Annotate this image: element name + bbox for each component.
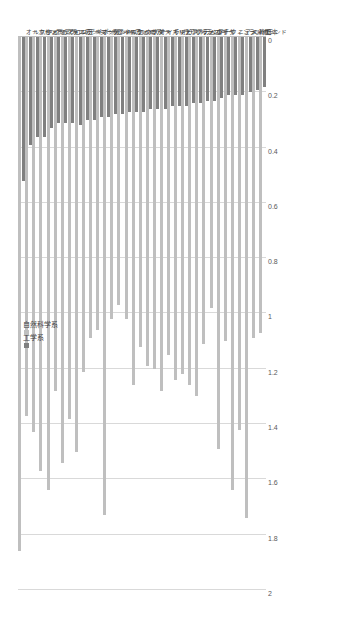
bar-natural-science: [18, 37, 21, 551]
bar-natural-science: [188, 37, 191, 385]
bar-row: [89, 0, 96, 625]
bar-row: [238, 0, 245, 625]
bar-natural-science: [210, 37, 213, 308]
chart-figure: オーストリアルクセンブルクスウェーデンドイツフィンランドエストニアアイルランドロ…: [0, 0, 352, 625]
bar-row: [160, 0, 167, 625]
bar-row: [75, 0, 82, 625]
tick-label-0.8: 0.8: [268, 258, 278, 265]
bar-row: [216, 0, 223, 625]
bar-natural-science: [25, 37, 28, 416]
bar-natural-science: [167, 37, 170, 355]
bar-natural-science: [117, 37, 120, 305]
bar-natural-science: [245, 37, 248, 518]
value-axis-ticks: 00.20.40.60.811.21.41.61.82: [268, 0, 312, 625]
bar-row: [110, 0, 117, 625]
bar-row: [223, 0, 230, 625]
bar-row: [82, 0, 89, 625]
bar-natural-science: [132, 37, 135, 385]
tick-label-0.4: 0.4: [268, 148, 278, 155]
bar-row: [124, 0, 131, 625]
bar-row: [252, 0, 259, 625]
chart-legend: 工学系自然科学系: [24, 228, 64, 348]
bar-row: [131, 0, 138, 625]
legend-label: 自然科学系: [23, 319, 58, 329]
bar-row: [117, 0, 124, 625]
tick-label-1.8: 1.8: [268, 535, 278, 542]
bar-row: [209, 0, 216, 625]
tick-label-1.2: 1.2: [268, 369, 278, 376]
bar-row: [195, 0, 202, 625]
bar-row: [146, 0, 153, 625]
bar-natural-science: [139, 37, 142, 347]
bar-natural-science: [146, 37, 149, 366]
bar-row: [188, 0, 195, 625]
bar-row: [202, 0, 209, 625]
bar-natural-science: [75, 37, 78, 452]
bar-natural-science: [195, 37, 198, 396]
bar-row: [231, 0, 238, 625]
chart-canvas: オーストリアルクセンブルクスウェーデンドイツフィンランドエストニアアイルランドロ…: [0, 0, 352, 625]
bar-natural-science: [252, 37, 255, 338]
bar-row: [68, 0, 75, 625]
bar-natural-science: [160, 37, 163, 391]
bar-natural-science: [96, 37, 99, 330]
bar-natural-science: [68, 37, 71, 419]
bar-row: [138, 0, 145, 625]
bar-natural-science: [153, 37, 156, 369]
bar-row: [103, 0, 110, 625]
bar-row: [181, 0, 188, 625]
bar-row: [167, 0, 174, 625]
bar-natural-science: [238, 37, 241, 430]
bar-natural-science: [231, 37, 234, 490]
bar-natural-science: [125, 37, 128, 319]
tick-label-1.6: 1.6: [268, 479, 278, 486]
bar-natural-science: [89, 37, 92, 338]
bar-row: [174, 0, 181, 625]
legend-swatch-engineering: [24, 343, 29, 348]
bar-row: [153, 0, 160, 625]
bar-natural-science: [82, 37, 85, 372]
bar-natural-science: [224, 37, 227, 341]
bar-row: [259, 0, 266, 625]
tick-label-1.4: 1.4: [268, 424, 278, 431]
legend-swatch-natural-science: [24, 330, 29, 335]
bar-natural-science: [174, 37, 177, 380]
bar-natural-science: [181, 37, 184, 374]
tick-label-1: 1: [268, 314, 272, 321]
bar-row: [96, 0, 103, 625]
bar-natural-science: [110, 37, 113, 319]
tick-label-0.6: 0.6: [268, 203, 278, 210]
bar-natural-science: [259, 37, 262, 333]
bar-natural-science: [202, 37, 205, 344]
bar-natural-science: [103, 37, 106, 515]
tick-label-0: 0: [268, 37, 272, 44]
bar-row: [245, 0, 252, 625]
bar-natural-science: [217, 37, 220, 449]
bar-engineering: [263, 37, 266, 87]
tick-label-0.2: 0.2: [268, 92, 278, 99]
tick-label-2: 2: [268, 590, 272, 597]
